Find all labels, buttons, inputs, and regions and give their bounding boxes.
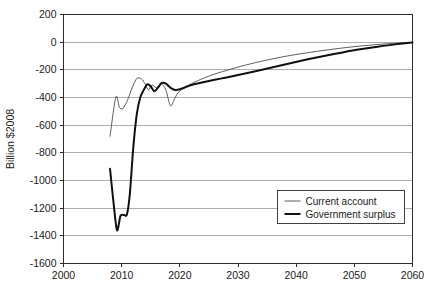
y-axis-label--1400: -1400 [30,229,57,241]
x-axis-tick-labels: 2000201020202030204020502060 [52,269,425,281]
y-axis-label--600: -600 [35,119,56,131]
y-axis-label--400: -400 [35,91,56,103]
x-axis-label-2040: 2040 [284,269,308,281]
tick-marks-group [60,15,413,268]
legend-label-government-surplus: Government surplus [306,209,396,220]
chart-container: 2000-200-400-600-800-1000-1200-1400-1600… [0,0,431,298]
economic-projection-line-chart: 2000-200-400-600-800-1000-1200-1400-1600… [0,0,431,298]
y-axis-label-200: 200 [39,8,57,20]
y-axis-label--800: -800 [35,146,56,158]
x-axis-label-2010: 2010 [110,269,134,281]
y-axis-label-0: 0 [51,36,57,48]
x-axis-label-2020: 2020 [168,269,192,281]
legend-label-current-account: Current account [306,196,377,207]
y-axis-title-group: Billion $2008 [4,109,16,169]
y-axis-label--1200: -1200 [30,202,57,214]
x-axis-label-2030: 2030 [226,269,250,281]
x-axis-label-2060: 2060 [401,269,425,281]
y-axis-tick-labels: 2000-200-400-600-800-1000-1200-1400-1600 [30,8,57,269]
y-axis-label--1000: -1000 [30,174,57,186]
y-axis-label--1600: -1600 [30,257,57,269]
x-axis-label-2050: 2050 [343,269,367,281]
y-axis-label--200: -200 [35,63,56,75]
y-axis-title: Billion $2008 [4,109,16,169]
chart-legend: Current accountGovernment surplus [278,191,405,224]
x-axis-label-2000: 2000 [52,269,76,281]
